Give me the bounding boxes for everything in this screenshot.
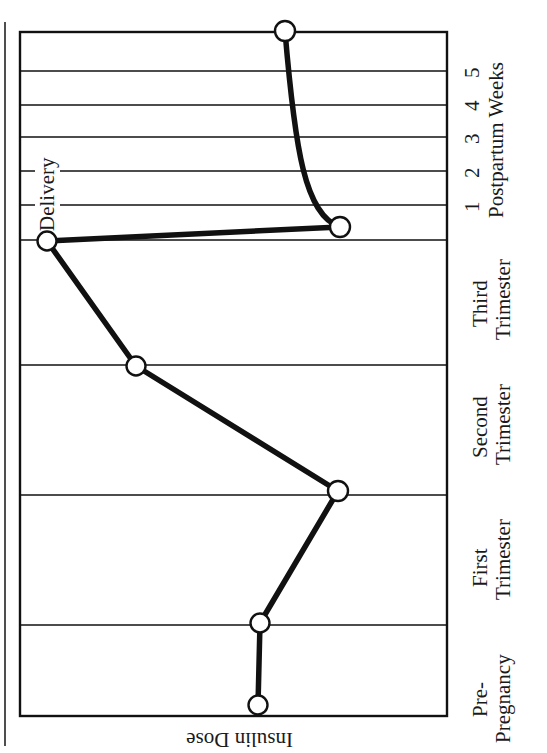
period-label-first-line1: First [470, 548, 491, 587]
postpartum-axis-label: Postpartum Weeks [486, 62, 507, 218]
insulin-dose-chart [0, 0, 547, 753]
y-axis-label: Insulin Dose [186, 729, 293, 750]
postpartum-tick-3: 3 [462, 134, 483, 145]
postpartum-tick-4: 4 [462, 101, 483, 112]
postpartum-tick-2: 2 [462, 168, 483, 179]
postpartum-tick-1: 1 [462, 202, 483, 213]
postpartum-tick-5: 5 [462, 68, 483, 79]
period-label-third-line2: Trimester [493, 259, 514, 340]
point-pre-pregnancy-end [251, 614, 270, 633]
point-first-trimester-end [328, 481, 348, 501]
point-second-trimester-end [127, 357, 146, 376]
period-label-pre-line1: Pre- [470, 682, 491, 717]
point-delivery [38, 232, 57, 251]
period-label-pre-line2: Pregnancy [493, 654, 514, 743]
period-label-second-line2: Trimester [493, 384, 514, 465]
period-label-third-line1: Third [470, 280, 491, 327]
period-label-second-line1: Second [470, 396, 491, 458]
insulin-dose-series [47, 31, 340, 705]
point-pre-pregnancy-start [249, 696, 268, 715]
plot-frame [20, 32, 447, 716]
point-postpartum-start [330, 217, 350, 237]
annotation-delivery: Delivery [37, 158, 58, 231]
grid-lines [20, 71, 447, 625]
point-postpartum-week6 [275, 21, 295, 41]
period-label-first-line2: Trimester [493, 519, 514, 600]
data-points [38, 21, 351, 715]
